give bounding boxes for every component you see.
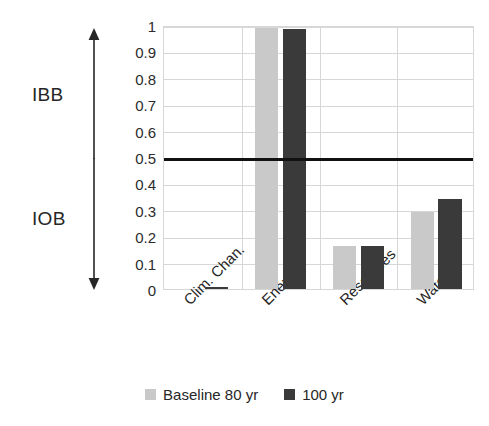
gridline xyxy=(164,79,473,80)
legend-label: Baseline 80 yr xyxy=(163,386,258,403)
bar-2-0 xyxy=(333,246,356,289)
gridline xyxy=(164,53,473,54)
y-tick-label: 0.9 xyxy=(108,45,156,60)
y-tick-label: 1 xyxy=(108,19,156,34)
bar-3-1 xyxy=(438,199,461,289)
bar-0-1 xyxy=(205,287,228,289)
y-tick-label: 0.1 xyxy=(108,256,156,271)
legend-label: 100 yr xyxy=(302,386,344,403)
bar-2-1 xyxy=(361,246,384,289)
legend-item-0[interactable]: Baseline 80 yr xyxy=(145,386,258,403)
arrow-up-icon xyxy=(86,28,102,160)
gridline xyxy=(164,27,473,28)
gridline xyxy=(164,132,473,133)
plot-area xyxy=(163,26,474,290)
gridline xyxy=(164,185,473,186)
y-tick-label: 0.6 xyxy=(108,124,156,139)
legend-swatch-icon xyxy=(145,389,156,400)
y-tick-label: 0.2 xyxy=(108,230,156,245)
gridline xyxy=(164,106,473,107)
y-tick-label: 0 xyxy=(108,283,156,298)
chart-legend: Baseline 80 yr100 yr xyxy=(0,386,489,403)
bar-chart-figure: IBB IOB 10.90.80.70.60.50.40.30.20.10 Cl… xyxy=(0,0,489,426)
region-label-ibb: IBB xyxy=(32,84,64,106)
legend-item-1[interactable]: 100 yr xyxy=(284,386,344,403)
bar-3-0 xyxy=(411,212,434,289)
arrow-down-icon xyxy=(86,157,102,290)
y-tick-label: 0.8 xyxy=(108,71,156,86)
x-axis-category-labels: Clim. Chan.EnergyResourcesWater xyxy=(163,292,474,370)
y-tick-label: 0.5 xyxy=(108,151,156,166)
region-label-iob: IOB xyxy=(32,208,66,230)
legend-swatch-icon xyxy=(284,389,295,400)
y-axis-tick-labels: 10.90.80.70.60.50.40.30.20.10 xyxy=(108,26,156,290)
threshold-line-0.5 xyxy=(164,158,473,161)
y-tick-label: 0.4 xyxy=(108,177,156,192)
y-tick-label: 0.3 xyxy=(108,203,156,218)
y-tick-label: 0.7 xyxy=(108,98,156,113)
